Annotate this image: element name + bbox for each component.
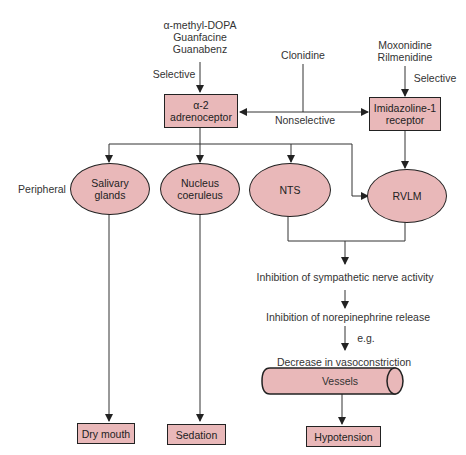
cascade-step-vasoconstriction: Decrease in vasoconstriction bbox=[264, 356, 424, 368]
sedation-box: Sedation bbox=[167, 424, 226, 445]
salivary-glands-oval: Salivary glands bbox=[70, 163, 150, 215]
coeruleus-line1: Nucleus bbox=[181, 177, 219, 189]
eg-label: e.g. bbox=[354, 332, 378, 344]
imidazoline-receptor-box: Imidazoline-1 receptor bbox=[369, 97, 441, 131]
nonselective-label: Nonselective bbox=[270, 114, 340, 126]
salivary-line2: glands bbox=[95, 189, 126, 201]
drug-clonidine: Clonidine bbox=[268, 49, 338, 61]
cascade-step-sympathetic: Inhibition of sympathetic nerve activity bbox=[250, 271, 440, 283]
imidazoline-selective-drugs: Moxonidine Rilmenidine bbox=[365, 39, 445, 63]
hypotension-box: Hypotension bbox=[306, 426, 381, 447]
selective-label-right: Selective bbox=[410, 72, 460, 84]
alpha2-selective-drugs: α-methyl-DOPA Guanfacine Guanabenz bbox=[148, 19, 252, 55]
connector-lines bbox=[0, 0, 466, 455]
rvlm-label: RVLM bbox=[393, 190, 422, 202]
alpha2-label-line1: α-2 bbox=[193, 99, 208, 111]
rvlm-oval: RVLM bbox=[367, 169, 447, 223]
alpha2-label-line2: adrenoceptor bbox=[170, 111, 232, 123]
drug-guanfacine: Guanfacine bbox=[148, 31, 252, 43]
alpha2-adrenoceptor-box: α-2 adrenoceptor bbox=[164, 94, 238, 128]
vessels-label: Vessels bbox=[300, 375, 380, 387]
coeruleus-line2: coeruleus bbox=[177, 189, 223, 201]
drug-methyldopa: α-methyl-DOPA bbox=[148, 19, 252, 31]
selective-label-left: Selective bbox=[150, 68, 198, 80]
drug-moxonidine: Moxonidine bbox=[365, 39, 445, 51]
nucleus-coeruleus-oval: Nucleus coeruleus bbox=[160, 163, 240, 215]
peripheral-label: Peripheral bbox=[14, 183, 70, 195]
salivary-line1: Salivary bbox=[91, 177, 128, 189]
dry-mouth-box: Dry mouth bbox=[77, 423, 135, 444]
nts-label: NTS bbox=[280, 184, 301, 196]
imidazoline-label-line2: receptor bbox=[386, 114, 425, 126]
drug-guanabenz: Guanabenz bbox=[148, 43, 252, 55]
imidazoline-label-line1: Imidazoline-1 bbox=[374, 102, 436, 114]
nts-oval: NTS bbox=[249, 163, 331, 217]
drug-rilmenidine: Rilmenidine bbox=[365, 51, 445, 63]
cascade-step-norepinephrine: Inhibition of norepinephrine release bbox=[258, 311, 438, 323]
